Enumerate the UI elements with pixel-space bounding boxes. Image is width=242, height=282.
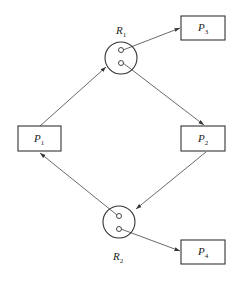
process-p3: P3 [181,16,225,40]
resource-r2-label: R2 [112,250,124,265]
process-p1: P1 [18,126,61,151]
resource-r2-instance-2 [117,227,122,232]
resource-allocation-graph: R1 R2 P3 P1 P2 P4 [0,0,242,282]
resource-r1: R1 [105,24,137,74]
diagram-svg: R1 R2 P3 P1 P2 P4 [0,0,242,282]
edge-r2-to-p1 [40,153,117,215]
resource-r1-circle [105,42,137,74]
process-p2: P2 [181,126,225,151]
resource-r1-label: R1 [115,24,127,39]
resource-r1-instance-2 [119,61,124,66]
edge-p1-to-r1 [40,67,106,126]
resource-r1-instance-1 [119,48,124,53]
resource-r2-instance-1 [117,214,122,219]
process-p4: P4 [181,240,225,264]
resource-r2: R2 [103,206,135,265]
edge-p2-to-r2 [136,152,206,209]
edge-r2-to-p4 [121,229,180,251]
resource-r2-circle [103,206,135,238]
edge-r1-to-p2 [123,63,204,125]
